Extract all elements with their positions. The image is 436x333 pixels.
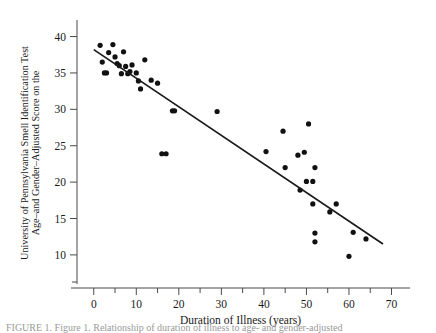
x-tick-label: 50: [301, 298, 313, 310]
data-point: [142, 57, 147, 62]
data-point: [163, 151, 168, 156]
data-point: [295, 153, 300, 158]
data-point: [304, 179, 309, 184]
data-points: [98, 42, 369, 259]
data-point: [121, 49, 126, 54]
y-axis-title-text: University of Pennsylvania Smell Identif…: [19, 46, 30, 260]
regression-line: [94, 50, 383, 244]
data-point: [134, 70, 139, 75]
regression-line-segment: [94, 50, 383, 244]
data-point: [123, 64, 128, 69]
data-point: [310, 179, 315, 184]
data-point: [306, 121, 311, 126]
data-point: [149, 78, 154, 83]
data-point: [112, 54, 117, 59]
y-tick-label: 15: [55, 213, 67, 225]
data-point: [302, 150, 307, 155]
data-point: [334, 201, 339, 206]
data-point: [155, 81, 160, 86]
data-point: [215, 109, 220, 114]
x-tick-label: 70: [386, 298, 398, 310]
data-point: [312, 239, 317, 244]
x-tick-label: 40: [258, 298, 270, 310]
x-tick-label: 0: [91, 298, 97, 310]
data-point: [351, 230, 356, 235]
data-point: [119, 71, 124, 76]
y-tick-label: 20: [55, 176, 67, 188]
data-point: [100, 59, 105, 64]
y-tick-label: 40: [55, 31, 67, 43]
figure-caption: FIGURE 1. Figure 1. Relationship of dura…: [6, 322, 436, 333]
data-point: [110, 42, 115, 47]
data-point: [363, 236, 368, 241]
data-point: [172, 108, 177, 113]
y-axis-title: Age–and Gender–Adjusted Score on theUniv…: [19, 46, 41, 260]
data-point: [346, 254, 351, 259]
y-axis-title-text: Age–and Gender–Adjusted Score on the: [30, 70, 41, 235]
data-point: [283, 165, 288, 170]
x-tick-label: 30: [216, 298, 228, 310]
data-point: [138, 86, 143, 91]
x-tick-label: 60: [343, 298, 355, 310]
data-point: [106, 50, 111, 55]
data-point: [98, 43, 103, 48]
x-axis-ticks: 010203040506070: [91, 288, 398, 310]
data-point: [310, 201, 315, 206]
data-point: [129, 62, 134, 67]
plot-axes: [71, 20, 410, 288]
data-point: [104, 70, 109, 75]
y-axis-ticks: 10152025303540: [55, 31, 78, 282]
y-tick-label: 25: [55, 140, 67, 152]
x-tick-label: 10: [131, 298, 143, 310]
y-tick-label: 10: [55, 249, 67, 261]
data-point: [312, 165, 317, 170]
data-point: [312, 230, 317, 235]
data-point: [280, 129, 285, 134]
y-tick-label: 30: [55, 103, 67, 115]
data-point: [263, 149, 268, 154]
x-tick-label: 20: [173, 298, 185, 310]
y-tick-label: 35: [55, 67, 67, 79]
